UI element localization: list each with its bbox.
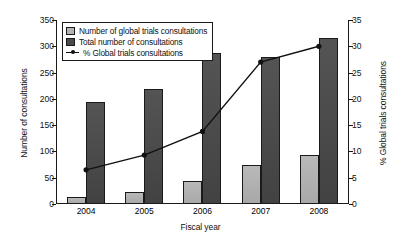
y-axis-right-tick-mark xyxy=(349,99,353,100)
y-axis-right-tick-label: 5 xyxy=(352,173,382,183)
y-axis-left-tick-label: 350 xyxy=(24,15,54,25)
y-axis-left-tick-mark xyxy=(52,20,56,21)
y-axis-right-tick-mark xyxy=(349,73,353,74)
percent-line-marker xyxy=(316,44,321,49)
y-axis-left-tick-mark xyxy=(52,204,56,205)
y-axis-left-ticks: 050100150200250300350 xyxy=(22,0,54,240)
legend-item-total: Total number of consultations xyxy=(66,36,207,47)
x-axis-tick-label: 2006 xyxy=(173,206,233,216)
y-axis-right-tick-label: 15 xyxy=(352,120,382,130)
y-axis-left-tick-mark xyxy=(52,99,56,100)
legend-item-percent: % Global trials consultations xyxy=(66,47,207,58)
x-axis-tick-label: 2004 xyxy=(56,206,116,216)
chart-figure: Number of consultations % Global trials … xyxy=(0,0,401,240)
percent-line-marker xyxy=(84,167,89,172)
y-axis-right-ticks: 05101520253035 xyxy=(352,0,384,240)
y-axis-right-tick-mark xyxy=(349,46,353,47)
x-axis-tick-label: 2005 xyxy=(114,206,174,216)
legend-swatch-light-icon xyxy=(66,27,75,35)
y-axis-right-tick-label: 30 xyxy=(352,41,382,51)
y-axis-left-tick-label: 50 xyxy=(24,173,54,183)
x-axis-tick-label: 2008 xyxy=(289,206,349,216)
y-axis-right-tick-mark xyxy=(349,204,353,205)
y-axis-right-tick-mark xyxy=(349,151,353,152)
y-axis-left-tick-label: 150 xyxy=(24,120,54,130)
percent-line-marker xyxy=(200,129,205,134)
legend-label-global-trials: Number of global trials consultations xyxy=(79,26,207,36)
legend-item-global-trials: Number of global trials consultations xyxy=(66,25,207,36)
y-axis-left-tick-label: 300 xyxy=(24,41,54,51)
y-axis-left-tick-mark xyxy=(52,178,56,179)
axis-spine-right xyxy=(348,20,349,204)
y-axis-right-tick-label: 35 xyxy=(352,15,382,25)
y-axis-right-tick-label: 25 xyxy=(352,68,382,78)
y-axis-right-tick-mark xyxy=(349,125,353,126)
chart-legend: Number of global trials consultations To… xyxy=(62,22,213,61)
y-axis-right-tick-label: 0 xyxy=(352,199,382,209)
percent-line-marker xyxy=(258,59,263,64)
legend-swatch-dark-icon xyxy=(66,38,75,46)
y-axis-left-tick-mark xyxy=(52,46,56,47)
legend-label-percent: % Global trials consultations xyxy=(83,48,183,58)
y-axis-right-tick-label: 20 xyxy=(352,94,382,104)
y-axis-left-tick-label: 100 xyxy=(24,146,54,156)
y-axis-left-tick-label: 0 xyxy=(24,199,54,209)
y-axis-right-tick-mark xyxy=(349,178,353,179)
y-axis-right-tick-mark xyxy=(349,20,353,21)
legend-line-dot-icon xyxy=(66,49,79,57)
y-axis-left-tick-mark xyxy=(52,73,56,74)
legend-label-total: Total number of consultations xyxy=(79,37,183,47)
y-axis-left-tick-label: 250 xyxy=(24,68,54,78)
x-axis-tick-label: 2007 xyxy=(231,206,291,216)
y-axis-left-tick-mark xyxy=(52,151,56,152)
percent-line-path xyxy=(86,46,319,170)
percent-line-marker xyxy=(142,153,147,158)
percent-line-markers xyxy=(84,44,322,173)
y-axis-left-tick-label: 200 xyxy=(24,94,54,104)
y-axis-right-tick-label: 10 xyxy=(352,146,382,156)
y-axis-left-tick-mark xyxy=(52,125,56,126)
x-axis-title: Fiscal year xyxy=(0,222,401,232)
